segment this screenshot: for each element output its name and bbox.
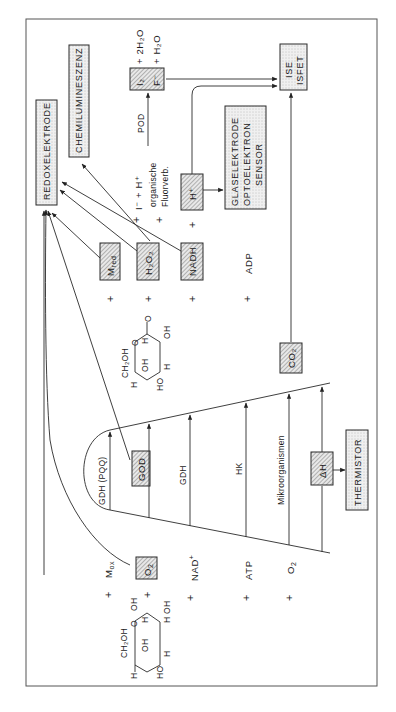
nad-sup: + <box>188 554 195 559</box>
plus-mox: + <box>102 592 114 598</box>
mikroorganismen-label: Mikroorganismen <box>276 435 286 505</box>
glucose-ho: HO <box>155 666 165 679</box>
o2-sub: 2 <box>290 562 297 567</box>
glucose-h-4: H <box>162 617 172 623</box>
god-box: GOD <box>132 451 150 486</box>
glucose-oh-3: OH <box>162 601 172 614</box>
nadh-label: NADH <box>187 247 198 276</box>
redoxelektrode-label: REDOXELEKTRODE <box>42 102 52 200</box>
gluconolactone-h-3: H <box>162 364 172 370</box>
glucose-h-3: H <box>162 651 172 657</box>
plus-h2o-label: + H₂O <box>151 35 162 64</box>
plus-o2box: + <box>141 592 153 598</box>
plus-hplus: + <box>186 222 198 228</box>
gluconolactone-ring-o: O <box>130 339 140 346</box>
o2-label: O <box>285 566 296 574</box>
gluconolactone-structure: CH₂OH O O OH H H HO H OH <box>120 315 172 391</box>
i2-label: I₂ <box>134 78 145 86</box>
gdh-label: GDH <box>178 465 188 485</box>
svg-text:O2: O2 <box>285 562 297 575</box>
glucose-ch2oh: CH₂OH <box>119 628 129 658</box>
mox-sub: ox <box>108 561 115 570</box>
pod-label: POD <box>136 114 146 133</box>
mred-sub: red <box>110 256 117 268</box>
redoxelektrode-box: REDOXELEKTRODE <box>36 100 57 205</box>
gluconolactone-oh-2: OH <box>162 326 172 339</box>
gluconolactone-h-2: H <box>129 382 139 388</box>
hk-label: HK <box>234 463 244 475</box>
thermistor-label: THERMISTOR <box>353 439 363 506</box>
glucose-oh-2: OH <box>140 639 150 652</box>
fluorverb-label: Fluorverb. <box>160 166 170 207</box>
hplus-box: H⁺ <box>181 174 203 210</box>
glucose-structure: CH₂OH O OH H OH H HO H H OH <box>119 598 172 679</box>
delta-h-box: ΔH <box>311 452 333 485</box>
gluconolactone-carbonyl-o: O <box>143 315 153 322</box>
thermistor-box: THERMISTOR <box>346 430 368 510</box>
o2-box-label: O <box>142 568 153 576</box>
hplus-label: H⁺ <box>187 187 198 200</box>
optoelektron-label: OPTOELEKTRON <box>242 123 252 206</box>
gluconolactone-h-1: H <box>140 338 150 344</box>
glaselektrode-label: GLASELEKTRODE <box>230 117 240 206</box>
mred-box: Mred <box>100 243 120 280</box>
i2-f-box: I₂ F⁻ <box>130 68 164 90</box>
mred-label: M <box>105 267 116 276</box>
iminus-hplus-label: I⁻ + H⁺ <box>133 175 144 210</box>
organische-label: organische <box>148 162 158 207</box>
plus-nad: + <box>184 595 196 601</box>
adp-label: ADP <box>243 253 254 274</box>
funnel-lower-edge <box>110 510 330 553</box>
co2-box: CO₂ <box>280 343 302 373</box>
plus-2h2o-label: + 2H₂O <box>134 29 145 64</box>
gluconolactone-ch2oh: CH₂OH <box>120 348 130 378</box>
plus-o2: + <box>283 595 295 601</box>
glucose-h-2: H <box>140 617 150 623</box>
fminus-label: F⁻ <box>151 74 162 86</box>
gluconolactone-oh-1: OH <box>140 359 150 372</box>
sensor-label: SENSOR <box>254 143 264 186</box>
o2-box-sub: 2 <box>147 564 154 569</box>
funnel-upper-edge <box>110 383 330 430</box>
plus-organische: + <box>153 217 165 223</box>
o2-box: O2 <box>136 557 157 579</box>
chemilumineszenz-box: CHEMILUMINESZENZ <box>69 45 89 157</box>
h2o2-label: H₂O₂ <box>143 251 154 275</box>
glucose-h-1: H <box>129 673 139 679</box>
svg-text:Mox: Mox <box>103 561 115 578</box>
ise-label: ISE <box>284 61 294 78</box>
plus-mred: + <box>104 296 116 302</box>
ise-isfet-box: ISE ISFET <box>280 44 307 90</box>
delta-h-label: ΔH <box>317 464 328 478</box>
arrow-h2o2-redox <box>60 190 137 251</box>
chemilumineszenz-label: CHEMILUMINESZENZ <box>74 48 84 153</box>
arrow-mred-redox <box>52 213 100 258</box>
glucose-oh-1: OH <box>129 598 139 611</box>
svg-text:NAD+: NAD+ <box>188 554 200 581</box>
glaselektrode-box: GLASELEKTRODE OPTOELEKTRON SENSOR <box>225 106 266 209</box>
gdh-pqq-label: GDH (PQQ) <box>97 456 107 505</box>
plus-adp: + <box>241 296 253 302</box>
plus-atp: + <box>240 595 252 601</box>
mox-label: M <box>103 569 114 578</box>
glucose-ring-o: O <box>129 620 139 627</box>
atp-label: ATP <box>243 560 254 580</box>
gluconolactone-ho: HO <box>155 378 165 391</box>
plus-nadh: + <box>186 296 198 302</box>
nad-label: NAD <box>189 559 200 581</box>
nadh-box: NADH <box>181 243 203 280</box>
co2-label: CO₂ <box>286 348 297 368</box>
god-label: GOD <box>136 458 147 481</box>
h2o2-box: H₂O₂ <box>137 243 159 280</box>
biosensor-diagram: REDOXELEKTRODE CHEMILUMINESZENZ ISE ISFE… <box>0 0 396 712</box>
plus-h2o2: + <box>142 296 154 302</box>
isfet-label: ISFET <box>295 55 305 85</box>
